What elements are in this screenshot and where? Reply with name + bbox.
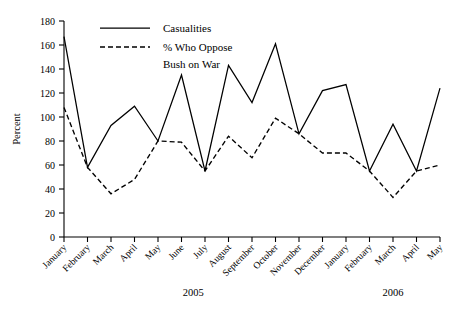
year-label-text: 2006 <box>383 287 404 298</box>
y-axis-title: Percent <box>11 113 22 145</box>
y-tick-label: 100 <box>40 112 55 123</box>
year-label-text: 2005 <box>183 287 204 298</box>
y-axis-title-text: Percent <box>11 113 22 145</box>
y-tick-label: 40 <box>45 184 55 195</box>
chart-canvas: 020406080100120140160180 Percent January… <box>0 0 459 321</box>
y-tick-label: 60 <box>45 160 55 171</box>
legend-label-1: Casualities <box>163 22 211 34</box>
line-chart: 020406080100120140160180 Percent January… <box>0 0 459 321</box>
y-tick-label: 140 <box>40 64 55 75</box>
y-tick-label: 20 <box>45 208 55 219</box>
legend-label-2-line2: Bush on War <box>163 58 220 70</box>
y-tick-label: 0 <box>50 232 55 243</box>
y-tick-label: 160 <box>40 40 55 51</box>
legend-label-2: % Who Oppose <box>163 41 233 53</box>
y-tick-label: 80 <box>45 136 55 147</box>
y-tick-label: 180 <box>40 16 55 27</box>
y-tick-label: 120 <box>40 88 55 99</box>
